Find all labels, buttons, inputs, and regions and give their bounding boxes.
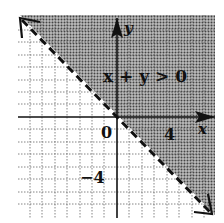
tick-label-minus-4: −4 <box>80 168 105 187</box>
inequality-label: x + y > 0 <box>103 66 187 86</box>
x-axis-label: x <box>197 120 208 138</box>
y-axis-label: y <box>123 19 134 37</box>
tick-label-4: 4 <box>164 125 175 144</box>
inequality-graph: x + y > 0 y x 0 4 −4 <box>0 0 224 223</box>
origin-label: 0 <box>101 123 112 142</box>
